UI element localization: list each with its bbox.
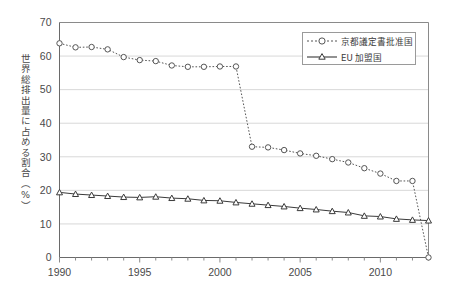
x-tick-label: 1995 [128, 266, 152, 278]
data-point [346, 160, 351, 165]
y-axis-tick-labels: 010203040506070 [40, 16, 52, 263]
y-tick-label: 0 [46, 251, 52, 263]
y-tick-label: 20 [40, 184, 52, 196]
data-point [410, 178, 415, 183]
x-axis-tick-labels: 19901995200020052010 [48, 266, 392, 278]
series-line [60, 192, 429, 220]
data-point [281, 147, 286, 152]
series-line [60, 43, 429, 257]
data-point [314, 153, 319, 158]
legend-swatch-dotted-circle [306, 34, 338, 48]
series-eu [57, 189, 432, 223]
data-point [297, 151, 302, 156]
y-tick-label: 10 [40, 218, 52, 230]
data-point [201, 64, 206, 69]
legend-item-eu: EU 加盟国 [303, 49, 415, 65]
data-series-layer [57, 41, 432, 261]
legend-label-kyoto: 京都議定書批准国 [338, 35, 413, 47]
y-tick-label: 60 [40, 50, 52, 62]
legend-swatch-solid-triangle [306, 50, 338, 64]
data-point [105, 47, 110, 52]
data-point [426, 255, 431, 260]
data-point [330, 156, 335, 161]
legend-label-eu: EU 加盟国 [338, 51, 382, 63]
data-point [185, 64, 190, 69]
y-tick-label: 70 [40, 16, 52, 28]
data-point [233, 64, 238, 69]
x-tick-label: 2010 [369, 266, 393, 278]
data-point [217, 64, 222, 69]
data-point [378, 171, 383, 176]
legend-item-kyoto: 京都議定書批准国 [303, 33, 415, 49]
data-point [265, 145, 270, 150]
chart-figure: 世界総排出量に占める割合（%） 010203040506070 19901995… [0, 0, 450, 294]
y-tick-label: 30 [40, 151, 52, 163]
x-tick-label: 1990 [48, 266, 72, 278]
y-tick-label: 40 [40, 117, 52, 129]
data-point [362, 166, 367, 171]
data-point [73, 45, 78, 50]
y-tick-label: 50 [40, 83, 52, 95]
x-tick-label: 2000 [208, 266, 232, 278]
data-point [153, 58, 158, 63]
series-kyoto [57, 41, 431, 261]
data-point [137, 57, 142, 62]
data-point [249, 144, 254, 149]
data-point [57, 41, 62, 46]
data-point [169, 63, 174, 68]
legend: 京都議定書批准国 EU 加盟国 [302, 32, 416, 65]
x-axis-ticks [60, 258, 429, 263]
data-point [121, 54, 126, 59]
data-point [394, 178, 399, 183]
data-point [89, 44, 94, 49]
x-tick-label: 2005 [288, 266, 312, 278]
